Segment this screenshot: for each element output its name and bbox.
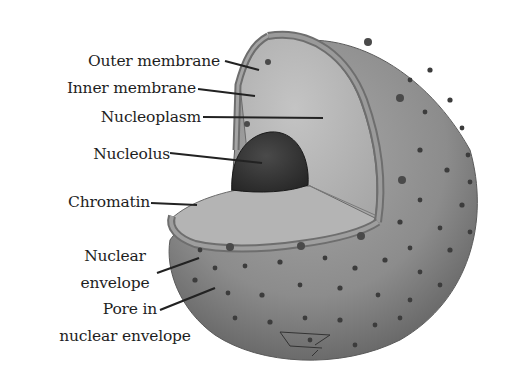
label-chromatin: Chromatin [40,193,150,211]
label-nucleoplasm: Nucleoplasm [80,108,201,126]
label-outer-membrane: Outer membrane [70,52,220,70]
label-pore-line2: nuclear envelope [50,327,200,345]
label-nuclear-envelope-line2: envelope [70,274,160,292]
label-nucleolus: Nucleolus [70,145,170,163]
label-pore-line1: Pore in [70,300,157,318]
label-inner-membrane: Inner membrane [46,79,196,97]
label-nuclear-envelope-line1: Nuclear [70,247,160,265]
